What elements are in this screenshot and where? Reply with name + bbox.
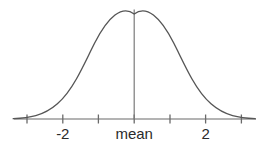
- tick-label-minus2-text: -2: [43, 126, 83, 141]
- normal-distribution-figure: -2 mean 2: [0, 0, 269, 153]
- tick-label-plus2: 2: [186, 126, 226, 141]
- tick-label-mean-text: mean: [104, 126, 164, 141]
- tick-label-minus2: -2: [43, 126, 83, 141]
- tick-label-mean: mean: [104, 126, 164, 141]
- tick-label-plus2-text: 2: [186, 126, 226, 141]
